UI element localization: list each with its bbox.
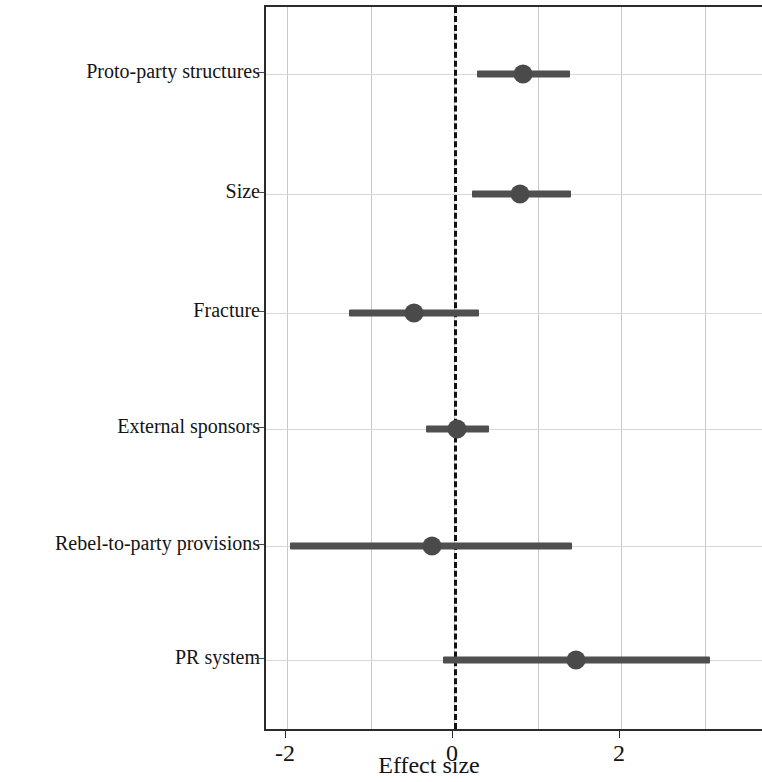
- forest-plot-figure: Proto-party structuresSizeFractureExtern…: [0, 0, 762, 782]
- vertical-gridline: [705, 7, 706, 729]
- point-estimate-marker: [514, 65, 533, 84]
- y-axis-tick: [255, 544, 264, 545]
- x-axis-title-text: Effect size: [378, 753, 480, 777]
- y-axis-category-label: Fracture: [193, 300, 260, 320]
- point-estimate-marker: [566, 651, 585, 670]
- horizontal-gridline: [266, 313, 762, 314]
- y-axis-category-label: External sponsors: [117, 416, 260, 436]
- y-axis-tick: [255, 658, 264, 659]
- vertical-gridline: [287, 7, 288, 729]
- y-axis-tick: [255, 192, 264, 193]
- vertical-gridline: [538, 7, 539, 729]
- y-axis-category-label: Proto-party structures: [86, 61, 260, 81]
- x-axis-tick: [619, 731, 620, 738]
- plot-area: [264, 5, 762, 731]
- point-estimate-marker: [404, 304, 423, 323]
- y-axis-category-label: Rebel-to-party provisions: [55, 533, 260, 553]
- x-axis-title: Effect size: [0, 753, 762, 777]
- point-estimate-marker: [510, 185, 529, 204]
- y-axis-category-label: Size: [226, 181, 260, 201]
- x-axis-tick: [452, 731, 453, 738]
- y-axis-tick: [255, 311, 264, 312]
- horizontal-gridline: [266, 429, 762, 430]
- y-axis-tick: [255, 72, 264, 73]
- point-estimate-marker: [448, 420, 467, 439]
- vertical-gridline: [371, 7, 372, 729]
- vertical-gridline: [621, 7, 622, 729]
- point-estimate-marker: [423, 537, 442, 556]
- zero-reference-line: [454, 7, 457, 729]
- y-axis-tick: [255, 427, 264, 428]
- y-axis-category-label: PR system: [175, 647, 260, 667]
- x-axis-tick: [285, 731, 286, 738]
